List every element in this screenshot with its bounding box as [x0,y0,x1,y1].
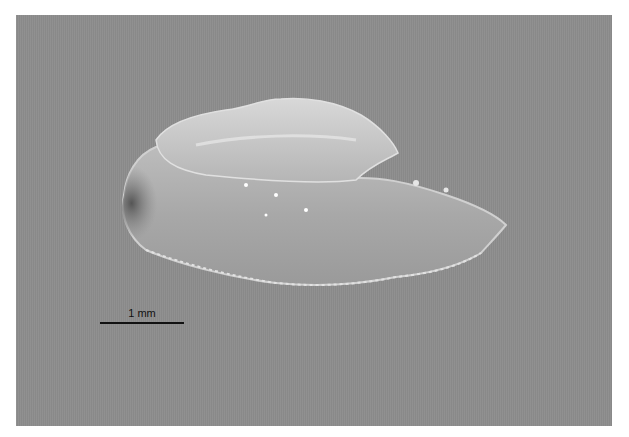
scale-bar-line [100,322,184,324]
scale-bar: 1 mm [100,307,184,327]
scale-bar-label: 1 mm [100,307,184,319]
specimen-photo: 1 mm [16,15,612,426]
otolith-specimen [16,15,612,426]
